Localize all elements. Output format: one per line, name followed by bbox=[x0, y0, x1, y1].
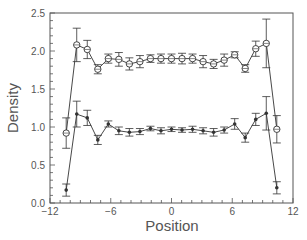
y-tick-label: 0.0 bbox=[31, 198, 45, 209]
filled-marker bbox=[159, 129, 163, 133]
y-axis-title: Density bbox=[4, 82, 21, 133]
y-tick-label: 0.5 bbox=[31, 160, 45, 171]
filled-marker bbox=[128, 131, 132, 135]
y-tick-label: 1.0 bbox=[31, 122, 45, 133]
filled-marker bbox=[201, 129, 205, 133]
filled-marker bbox=[191, 127, 195, 131]
filled-marker bbox=[107, 122, 111, 126]
filled-marker bbox=[180, 128, 184, 132]
x-tick-label: 6 bbox=[229, 206, 235, 217]
density-chart: −12−60612 0.00.51.01.52.02.5 Position De… bbox=[0, 0, 307, 240]
series-line bbox=[66, 113, 277, 190]
filled-marker bbox=[170, 127, 174, 131]
filled-marker bbox=[64, 188, 68, 192]
x-tick-label: −6 bbox=[105, 206, 117, 217]
filled-marker bbox=[275, 186, 279, 190]
x-axis-title: Position bbox=[145, 217, 198, 234]
filled-marker bbox=[243, 136, 247, 140]
filled-marker bbox=[117, 129, 121, 133]
filled-marker bbox=[75, 112, 79, 116]
filled-marker bbox=[138, 130, 142, 134]
filled-marker bbox=[222, 128, 226, 132]
series-2 bbox=[62, 97, 281, 197]
filled-marker bbox=[233, 122, 237, 126]
filled-marker bbox=[212, 131, 216, 135]
filled-marker bbox=[254, 118, 258, 122]
y-axis: 0.00.51.01.52.02.5 bbox=[31, 8, 55, 209]
filled-marker bbox=[149, 127, 153, 131]
filled-marker bbox=[85, 116, 89, 120]
x-tick-label: 0 bbox=[169, 206, 175, 217]
series-layer bbox=[62, 19, 281, 196]
y-tick-label: 2.0 bbox=[31, 46, 45, 57]
filled-marker bbox=[264, 112, 268, 116]
y-tick-label: 1.5 bbox=[31, 84, 45, 95]
x-axis: −12−60612 bbox=[42, 198, 299, 217]
x-tick-label: 12 bbox=[287, 206, 299, 217]
y-tick-label: 2.5 bbox=[31, 8, 45, 19]
filled-marker bbox=[96, 138, 100, 142]
